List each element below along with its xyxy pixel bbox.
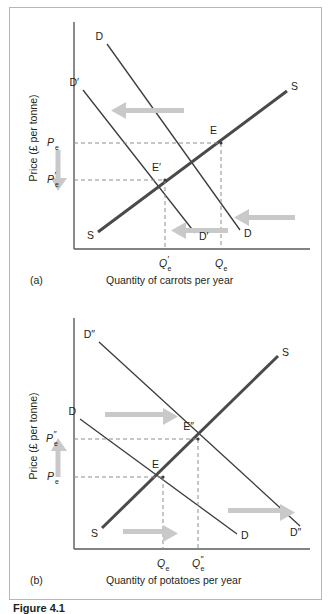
- x-tick-qe-base-b: Q: [157, 557, 165, 569]
- equilibrium-point-e-prime-a: [163, 178, 166, 181]
- y-tick-pe-base-a: P: [47, 136, 54, 148]
- x-tick-qe-prime-a: Q ′ e: [159, 254, 172, 272]
- panel-tag-b: (b): [30, 574, 43, 586]
- label-equilibrium-e-b: E: [152, 458, 159, 470]
- equilibrium-point-e-a: [219, 141, 222, 144]
- equilibrium-point-e-double-prime-b: [196, 437, 199, 440]
- y-axis-title-b: Price (£ per tonne): [27, 393, 39, 480]
- label-demand-top-a: D: [95, 30, 103, 42]
- chart-svg-b: D″ D S S D D″ E″ E P ″ e P e Q e: [10, 296, 323, 596]
- x-tick-qe-double-prime-mark-b: ″: [201, 554, 205, 564]
- x-tick-qe-double-prime-b: Q ″ e: [192, 554, 205, 572]
- figure-caption: Figure 4.1: [13, 602, 193, 614]
- equilibrium-point-e-b: [161, 475, 164, 478]
- arrow-demand-shift-upper-b: [105, 408, 178, 425]
- label-supply-top-a: S: [291, 80, 298, 92]
- x-tick-qe-a: Q e: [215, 257, 228, 272]
- label-demand-shifted-top-a: D′: [69, 76, 79, 88]
- x-tick-qe-prime-sub-a: e: [168, 265, 172, 272]
- x-tick-qe-b: Q e: [157, 557, 170, 572]
- label-equilibrium-e-a: E: [210, 124, 217, 136]
- chart-panel-a: D D′ S S D′ D E E′ P e P ′ e Q ′ e: [10, 8, 323, 296]
- panel-tag-a: (a): [30, 274, 43, 286]
- y-tick-pe-double-prime-mark-b: ″: [54, 429, 58, 439]
- x-tick-qe-double-prime-base-b: Q: [192, 557, 200, 569]
- y-tick-pe-a: P e: [47, 136, 59, 151]
- label-demand-bottom-b: D: [241, 529, 249, 541]
- y-axis-title-a: Price (£ per tonne): [27, 95, 39, 182]
- x-tick-qe-double-prime-sub-b: e: [201, 565, 205, 572]
- figure-frame: D D′ S S D′ D E E′ P e P ′ e Q ′ e: [9, 7, 322, 600]
- supply-curve-b: [102, 356, 278, 528]
- x-tick-qe-base-a: Q: [215, 257, 223, 269]
- y-tick-pe-sub-a: e: [55, 144, 59, 151]
- chart-panel-b: D″ D S S D D″ E″ E P ″ e P e Q e: [10, 296, 323, 596]
- y-tick-pe-sub-b: e: [55, 478, 59, 485]
- label-supply-bottom-b: S: [91, 527, 98, 539]
- y-tick-pe-double-prime-base-b: P: [46, 432, 53, 444]
- y-tick-pe-prime-sub-a: e: [55, 181, 59, 188]
- x-axis-title-a: Quantity of carrots per year: [106, 274, 233, 286]
- x-tick-qe-sub-a: e: [224, 265, 228, 272]
- label-demand-top-b: D: [68, 405, 76, 417]
- label-demand-shifted-bottom-b: D″: [290, 526, 302, 538]
- y-tick-pe-double-prime-sub-b: e: [54, 440, 58, 447]
- label-supply-top-b: S: [282, 346, 289, 358]
- arrow-quantity-increase-b: [123, 525, 178, 542]
- x-axis-title-b: Quantity of potatoes per year: [106, 574, 241, 586]
- y-tick-pe-base-b: P: [47, 470, 54, 482]
- arrow-demand-shift-lower-b: [228, 504, 295, 521]
- label-demand-shifted-bottom-a: D′: [199, 230, 209, 242]
- label-supply-bottom-a: S: [87, 229, 94, 241]
- label-equilibrium-e-double-prime-b: E″: [183, 420, 194, 432]
- x-tick-qe-prime-mark-a: ′: [168, 254, 170, 264]
- label-demand-shifted-top-b: D″: [84, 328, 96, 340]
- x-tick-qe-sub-b: e: [166, 565, 170, 572]
- y-tick-pe-prime-base-a: P: [47, 173, 54, 185]
- label-demand-bottom-a: D: [244, 227, 252, 239]
- demand-curve-original-a: [107, 44, 240, 230]
- x-tick-qe-prime-base-a: Q: [159, 257, 167, 269]
- label-equilibrium-e-prime-a: E′: [152, 161, 161, 173]
- chart-svg-a: D D′ S S D′ D E E′ P e P ′ e Q ′ e: [10, 8, 323, 296]
- arrow-demand-shift-upper-a: [111, 102, 184, 119]
- y-tick-pe-double-prime-b: P ″ e: [46, 429, 58, 447]
- arrow-demand-shift-lower-a: [234, 209, 295, 226]
